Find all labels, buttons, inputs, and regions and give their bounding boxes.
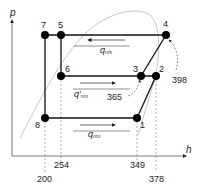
point-8 (41, 114, 49, 122)
annotation-365: 365 (107, 92, 122, 102)
tick-200: 200 (37, 174, 52, 184)
tick-378: 378 (149, 174, 164, 184)
leader-398 (169, 40, 178, 70)
label-1: 1 (140, 120, 145, 130)
leader-365 (128, 80, 140, 96)
label-q-nro: qnro (88, 129, 100, 139)
y-axis-label: p (9, 7, 16, 18)
label-q-nrk: qnrk (100, 45, 112, 55)
ph-diagram: p h qnrk q′nro qnro 398 365 (0, 0, 198, 189)
label-6: 6 (65, 64, 70, 74)
label-4: 4 (163, 19, 168, 29)
x-axis-label: h (186, 144, 192, 155)
label-q-nro-prime: q′nro (74, 89, 88, 99)
point-5 (57, 31, 65, 39)
label-8: 8 (35, 120, 40, 130)
line-1-2 (137, 76, 156, 118)
label-5: 5 (58, 20, 63, 30)
point-7 (41, 31, 49, 39)
tick-254: 254 (54, 160, 69, 170)
label-2: 2 (159, 64, 164, 74)
point-6 (57, 72, 65, 80)
point-4 (162, 31, 170, 39)
tick-349: 349 (130, 160, 145, 170)
label-3: 3 (133, 64, 138, 74)
label-7: 7 (41, 20, 46, 30)
annotation-398: 398 (172, 75, 187, 85)
point-3 (137, 72, 145, 80)
